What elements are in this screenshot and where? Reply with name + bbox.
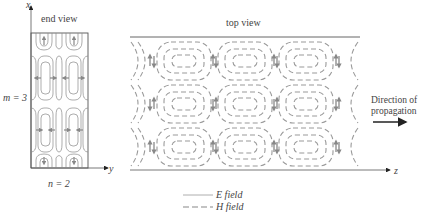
propagation-label-line1: Direction of — [371, 95, 417, 106]
top-view-title: top view — [226, 17, 261, 28]
e-field-legend-text: E field — [216, 189, 242, 200]
propagation-label-line2: propagation — [371, 106, 416, 117]
end-view — [31, 6, 108, 168]
e-field-legend-label: E field — [216, 189, 242, 200]
m-mode-label: m = 3 — [3, 92, 27, 103]
end-view-title: end view — [41, 13, 77, 24]
legend — [183, 195, 213, 207]
top-view — [130, 37, 406, 170]
x-axis-label: x — [26, 0, 30, 10]
z-axis-label: z — [394, 165, 398, 176]
h-field-legend-text: H field — [216, 201, 244, 212]
n-mode-label: n = 2 — [48, 178, 70, 189]
h-field-legend-label: H field — [216, 201, 244, 212]
y-axis-label: y — [109, 163, 113, 174]
